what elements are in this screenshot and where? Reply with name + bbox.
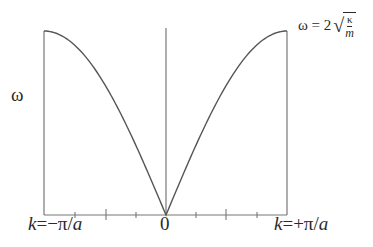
x-label-left: k=−π/a — [28, 213, 82, 235]
formula-lhs: ω = 2 — [298, 17, 331, 34]
x-label-center: 0 — [160, 213, 170, 235]
denominator: m — [345, 27, 354, 39]
y-axis-label: ω — [11, 84, 24, 106]
fraction: κm — [343, 12, 356, 39]
x-label-right: k=+π/a — [274, 213, 328, 235]
max-frequency-annotation: ω = 2√κm — [298, 12, 356, 39]
